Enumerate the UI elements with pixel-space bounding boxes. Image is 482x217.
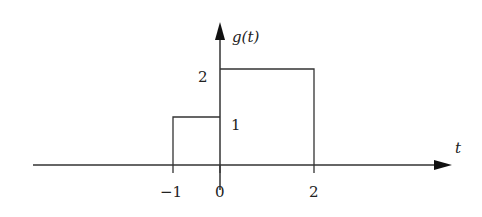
level-1-label: 1 <box>231 116 241 134</box>
x-axis-label: t <box>455 139 462 157</box>
t-axis-arrow-icon <box>434 160 452 170</box>
tick-label-neg1: −1 <box>160 183 182 201</box>
level-2-label: 2 <box>198 68 208 86</box>
tick-label-0: 0 <box>215 183 225 201</box>
g-axis-arrow-icon <box>215 22 225 40</box>
tick-label-2: 2 <box>309 183 319 201</box>
signal-plot: g(t) t 2 1 −1 0 2 <box>0 0 482 217</box>
y-axis-label: g(t) <box>232 28 259 46</box>
